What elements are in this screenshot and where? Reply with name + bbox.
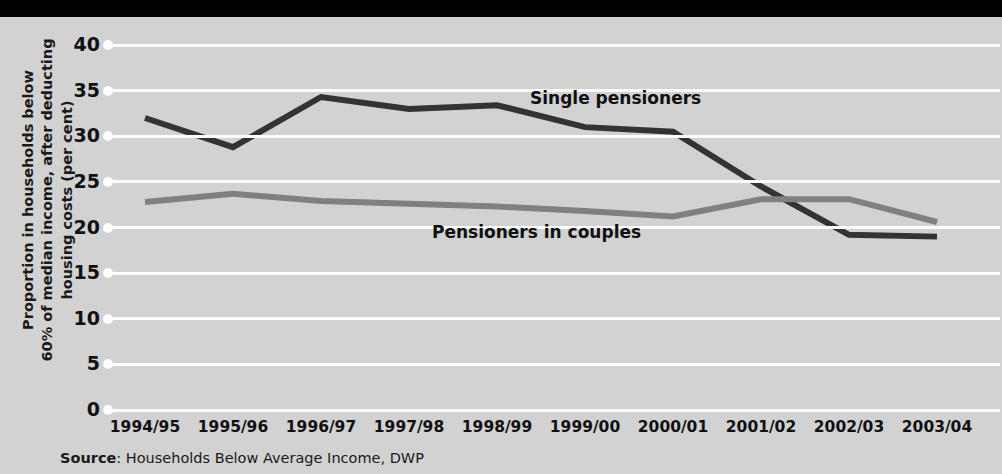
gridline-dot-10: [103, 314, 113, 324]
y-tick-label-25: 25: [60, 172, 100, 191]
x-tick-label-1998-99: 1998/99: [462, 418, 532, 436]
x-tick-label-1994-95: 1994/95: [110, 418, 180, 436]
gridline-40: [108, 44, 1000, 47]
series-label-pensioners-in-couples: Pensioners in couples: [432, 222, 641, 242]
y-axis-title-line-1: Proportion in households below: [19, 70, 38, 330]
x-axis-ticks: 1994/951995/961996/971997/981998/991999/…: [108, 418, 1000, 442]
x-tick-label-2003-04: 2003/04: [902, 418, 972, 436]
source-text: Households Below Average Income, DWP: [126, 450, 424, 466]
y-axis-ticks: 0510152025303540: [52, 45, 100, 410]
top-black-band: [0, 0, 1002, 17]
y-tick-label-10: 10: [60, 309, 100, 328]
gridline-dot-35: [103, 86, 113, 96]
gridline-0: [108, 409, 1000, 412]
y-tick-label-35: 35: [60, 81, 100, 100]
series-line-single-pensioners: [145, 97, 937, 237]
gridline-dot-25: [103, 177, 113, 187]
y-tick-label-30: 30: [60, 126, 100, 145]
chart-page: Proportion in households below 60% of me…: [0, 0, 1002, 474]
y-tick-label-5: 5: [60, 354, 100, 373]
gridline-dot-0: [103, 405, 113, 415]
source-note: Source: Households Below Average Income,…: [60, 450, 424, 466]
gridline-30: [108, 135, 1000, 138]
y-tick-label-15: 15: [60, 263, 100, 282]
gridline-dot-40: [103, 40, 113, 50]
gridline-15: [108, 272, 1000, 275]
gridline-5: [108, 363, 1000, 366]
x-tick-label-2000-01: 2000/01: [638, 418, 708, 436]
series-label-single-pensioners: Single pensioners: [530, 88, 701, 108]
y-tick-label-20: 20: [60, 218, 100, 237]
gridline-dot-20: [103, 223, 113, 233]
x-tick-label-1996-97: 1996/97: [286, 418, 356, 436]
x-tick-label-1999-00: 1999/00: [550, 418, 620, 436]
x-tick-label-1995-96: 1995/96: [198, 418, 268, 436]
gridline-25: [108, 180, 1000, 183]
gridline-10: [108, 317, 1000, 320]
source-label: Source: [60, 450, 116, 466]
x-tick-label-2001-02: 2001/02: [726, 418, 796, 436]
x-tick-label-2002-03: 2002/03: [814, 418, 884, 436]
source-separator: :: [116, 450, 121, 466]
x-tick-label-1997-98: 1997/98: [374, 418, 444, 436]
y-tick-label-40: 40: [60, 35, 100, 54]
y-tick-label-0: 0: [60, 400, 100, 419]
